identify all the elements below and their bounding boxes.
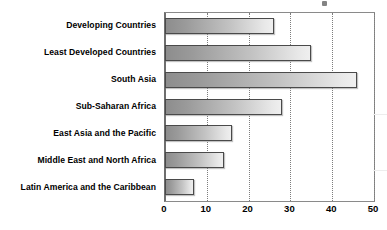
x-tick-label: 30: [284, 203, 295, 214]
x-tick-label: 10: [201, 203, 212, 214]
bar-row: [165, 67, 374, 94]
bar-row: [165, 94, 374, 121]
page-edge-rule-lower: [373, 170, 387, 171]
bar-row: [165, 13, 374, 40]
category-label: Latin America and the Caribbean: [0, 182, 156, 192]
x-tick-label: 0: [161, 203, 166, 214]
category-label: Sub-Saharan Africa: [0, 101, 156, 111]
bar-chart-figure: Developing CountriesLeast Developed Coun…: [0, 0, 387, 230]
bar: [165, 125, 232, 141]
category-label: Middle East and North Africa: [0, 155, 156, 165]
bar-row: [165, 120, 374, 147]
category-label: East Asia and the Pacific: [0, 128, 156, 138]
category-label: Least Developed Countries: [0, 47, 156, 57]
bar-row: [165, 40, 374, 67]
bar: [165, 18, 274, 34]
bar: [165, 72, 357, 88]
x-tick-label: 20: [242, 203, 253, 214]
plot-area: [164, 12, 375, 202]
category-label: South Asia: [0, 74, 156, 84]
gridline-50: [374, 13, 375, 201]
x-tick-label: 40: [326, 203, 337, 214]
category-axis-labels: Developing CountriesLeast Developed Coun…: [0, 12, 160, 200]
bar: [165, 152, 224, 168]
bar: [165, 99, 282, 115]
scan-artifact-mark: [322, 1, 327, 6]
category-label: Developing Countries: [0, 20, 156, 30]
bar-row: [165, 174, 374, 201]
x-axis-tick-labels: 01020304050: [164, 203, 373, 219]
bar: [165, 179, 194, 195]
x-tick-label: 50: [368, 203, 379, 214]
bar: [165, 45, 311, 61]
bar-row: [165, 147, 374, 174]
page-edge-rule-upper: [373, 114, 387, 115]
